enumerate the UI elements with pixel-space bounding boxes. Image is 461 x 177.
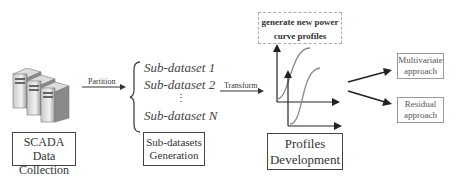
server-stack-icon — [5, 68, 80, 128]
stage2-label-line1: Sub-datasets — [144, 136, 204, 149]
stage2-label-line2: Generation — [144, 149, 204, 162]
multivariate-approach-box: Multivariate approach — [397, 53, 444, 79]
stage1-label-line1: SCADA Data — [13, 136, 75, 164]
note-line2: curve profiles — [259, 29, 341, 43]
brace-icon — [128, 60, 142, 134]
sub-datasets-generation-box: Sub-datasets Generation — [143, 132, 205, 166]
generate-profiles-note: generate new power curve profiles — [258, 12, 342, 44]
note-line1: generate new power — [259, 15, 341, 29]
output-arrows — [345, 62, 395, 112]
sub-dataset-n: Sub-dataset N — [144, 108, 217, 124]
sub-dataset-2: Sub-dataset 2 — [144, 77, 215, 93]
stage3-label-line1: Profiles — [268, 136, 342, 152]
output2-label-line1: Residual — [405, 99, 437, 110]
transform-arrow — [218, 86, 268, 96]
profiles-development-box: Profiles Development — [267, 133, 343, 170]
output1-label-line1: Multivariate — [398, 55, 443, 66]
residual-approach-box: Residual approach — [397, 97, 444, 123]
stage3-label-line2: Development — [268, 152, 342, 168]
partition-arrow — [80, 82, 130, 92]
stage1-label-line2: Collection — [13, 164, 75, 177]
scada-data-collection-box: SCADA Data Collection — [12, 132, 76, 166]
output2-label-line2: approach — [404, 110, 437, 121]
power-curve-plots-icon — [262, 44, 342, 130]
sub-dataset-1: Sub-dataset 1 — [144, 60, 215, 76]
vertical-ellipsis: ⋮ — [176, 92, 186, 103]
output1-label-line2: approach — [404, 66, 437, 77]
